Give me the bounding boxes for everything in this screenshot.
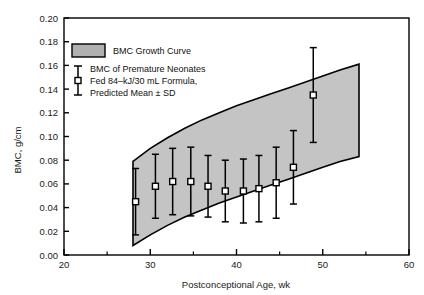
legend-band-swatch bbox=[72, 44, 105, 57]
y-tick-label: 0.00 bbox=[40, 250, 59, 261]
x-tick-label: 50 bbox=[317, 259, 328, 270]
y-tick-label: 0.12 bbox=[40, 107, 59, 118]
y-tick-label: 0.18 bbox=[40, 36, 59, 47]
x-axis: 2030405060 bbox=[59, 249, 415, 270]
data-marker bbox=[273, 180, 279, 186]
data-marker bbox=[188, 179, 194, 185]
y-tick-label: 0.10 bbox=[40, 131, 59, 142]
y-tick-label: 0.14 bbox=[40, 84, 59, 95]
data-marker bbox=[205, 183, 211, 189]
data-marker bbox=[152, 183, 158, 189]
y-tick-label: 0.06 bbox=[40, 178, 59, 189]
y-tick-label: 0.02 bbox=[40, 226, 59, 237]
data-marker bbox=[170, 179, 176, 185]
x-tick-label: 20 bbox=[59, 259, 70, 270]
data-marker bbox=[256, 186, 262, 192]
y-tick-label: 0.16 bbox=[40, 60, 59, 71]
y-tick-label: 0.08 bbox=[40, 155, 59, 166]
y-axis-title: BMC, g/cm bbox=[12, 126, 23, 173]
data-marker bbox=[240, 188, 246, 194]
legend-marker-label-line1: BMC of Premature Neonates bbox=[90, 64, 206, 74]
data-marker bbox=[133, 199, 139, 205]
legend-marker-label-line2: Fed 84–kJ/30 mL Formula, bbox=[90, 76, 197, 86]
chart-legend: BMC Growth Curve BMC of Premature Neonat… bbox=[72, 44, 206, 98]
legend-marker-label-line3: Predicted Mean ± SD bbox=[90, 88, 176, 98]
y-tick-label: 0.04 bbox=[40, 202, 59, 213]
x-tick-label: 40 bbox=[231, 259, 242, 270]
data-marker bbox=[310, 92, 316, 98]
chart-canvas: 0.000.020.040.060.080.100.120.140.160.18… bbox=[0, 0, 424, 295]
x-tick-label: 30 bbox=[145, 259, 156, 270]
x-axis-title: Postconceptional Age, wk bbox=[182, 279, 291, 290]
data-marker bbox=[222, 188, 228, 194]
x-tick-label: 60 bbox=[404, 259, 415, 270]
chart-figure: 0.000.020.040.060.080.100.120.140.160.18… bbox=[0, 0, 424, 295]
legend-errorbar-symbol bbox=[74, 66, 82, 95]
legend-band-label: BMC Growth Curve bbox=[113, 46, 191, 56]
data-marker bbox=[290, 164, 296, 170]
y-tick-label: 0.20 bbox=[40, 13, 59, 24]
